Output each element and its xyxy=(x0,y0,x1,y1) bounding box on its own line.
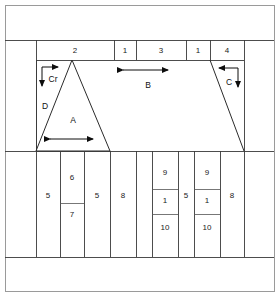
technical-diagram: Cr D A B C 2 1 3 1 4 5 6 7 5 8 9 1 10 5 … xyxy=(0,0,279,299)
cell-bot-5b: 5 xyxy=(95,191,100,200)
cell-bot-8b: 8 xyxy=(230,191,235,200)
cell-top-2: 2 xyxy=(73,46,78,55)
trapezoid-right-slant xyxy=(210,60,244,151)
cell-bot-10b: 10 xyxy=(203,223,212,232)
cell-bot-9b: 9 xyxy=(205,168,210,177)
cell-bot-1a: 1 xyxy=(163,196,168,205)
label-a: A xyxy=(70,115,76,125)
cell-bot-6: 6 xyxy=(70,173,75,182)
cell-bot-10a: 10 xyxy=(161,223,170,232)
cell-top-1b: 1 xyxy=(196,46,201,55)
cell-bot-9a: 9 xyxy=(163,168,168,177)
cell-bot-5c: 5 xyxy=(184,191,189,200)
cell-top-4: 4 xyxy=(225,46,230,55)
cell-bot-8a: 8 xyxy=(121,191,126,200)
outer-border xyxy=(5,5,274,291)
cell-bot-7: 7 xyxy=(70,210,75,219)
cell-top-3: 3 xyxy=(159,46,164,55)
cell-top-1a: 1 xyxy=(123,46,128,55)
label-b: B xyxy=(145,80,151,90)
label-c: C xyxy=(226,77,232,87)
cell-bot-1b: 1 xyxy=(205,196,210,205)
label-d: D xyxy=(42,101,48,111)
cell-bot-5a: 5 xyxy=(46,191,51,200)
figure-page: Cr D A B C 2 1 3 1 4 5 6 7 5 8 9 1 10 5 … xyxy=(0,0,279,299)
label-cr: Cr xyxy=(49,74,58,84)
